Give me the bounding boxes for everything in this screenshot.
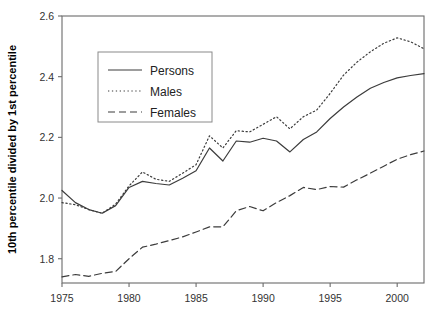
- y-tick-label: 2.6: [39, 10, 54, 22]
- legend-label-males: Males: [150, 85, 182, 99]
- legend-label-persons: Persons: [150, 64, 194, 78]
- y-axis-title: 10th percentile divided by 1st percentil…: [6, 45, 18, 254]
- line-chart: 1.82.02.22.42.61975198019851990199520001…: [0, 0, 438, 320]
- legend-label-females: Females: [150, 106, 196, 120]
- x-tick-label: 1985: [184, 292, 208, 304]
- x-tick-label: 1980: [117, 292, 141, 304]
- y-tick-label: 2.2: [39, 131, 54, 143]
- y-tick-label: 2.4: [39, 71, 54, 83]
- x-tick-label: 1990: [251, 292, 275, 304]
- chart-figure: 1.82.02.22.42.61975198019851990199520001…: [0, 0, 438, 320]
- y-tick-label: 1.8: [39, 253, 54, 265]
- x-tick-label: 1995: [318, 292, 342, 304]
- x-tick-label: 2000: [386, 292, 410, 304]
- y-tick-label: 2.0: [39, 192, 54, 204]
- series-line-females: [62, 151, 424, 277]
- x-tick-label: 1975: [50, 292, 74, 304]
